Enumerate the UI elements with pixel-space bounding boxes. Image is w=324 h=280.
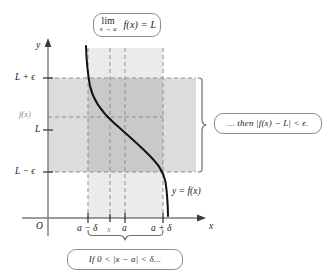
y-axis-label: y	[36, 41, 40, 51]
epsilon-callout-text: ... then |f(x) − L| < ϵ.	[227, 119, 308, 128]
x-tick-label-a-minus-delta: a − δ	[77, 224, 97, 234]
x-axis-label: x	[209, 222, 213, 232]
y-tick-label-l-plus-epsilon: L + ϵ	[15, 73, 35, 83]
y-tick-label-l: L	[35, 125, 40, 135]
limit-definition-callout: lim x → a f(x) = L	[93, 13, 161, 37]
x-tick-label-x: x	[107, 225, 111, 234]
y-tick-label-l-minus-epsilon: L − ϵ	[15, 167, 35, 177]
x-tick-label-a-plus-delta: a + δ	[151, 224, 171, 234]
limit-callout-text: lim x → a f(x) = L	[98, 17, 156, 33]
limit-callout-body: f(x) = L	[119, 20, 156, 30]
lim-subscript: x → a	[100, 26, 117, 33]
delta-hypothesis-callout: If 0 < |x − a| < δ...	[67, 249, 183, 270]
origin-label: O	[36, 222, 43, 232]
curve-label: y = f(x)	[172, 187, 201, 197]
limit-diagram-svg	[0, 0, 324, 280]
limit-definition-figure: y x O L + ϵ f(x) L L − ϵ a − δ x a a + δ…	[0, 0, 324, 280]
lim-operator: lim x → a	[100, 17, 117, 33]
epsilon-brace	[198, 78, 206, 172]
x-tick-label-a: a	[122, 224, 127, 234]
y-tick-label-fx: f(x)	[19, 110, 31, 119]
epsilon-conclusion-callout: ... then |f(x) − L| < ϵ.	[214, 113, 322, 134]
delta-callout-text: If 0 < |x − a| < δ...	[89, 255, 162, 264]
